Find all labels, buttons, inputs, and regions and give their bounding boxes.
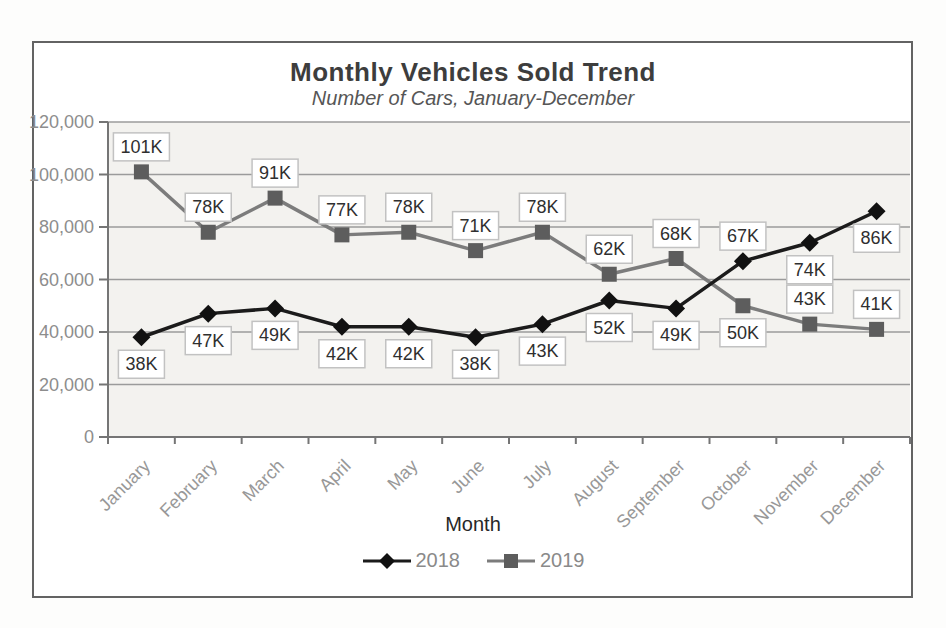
svg-text:41K: 41K [861,294,893,314]
x-axis-title: Month [0,513,946,536]
svg-text:100,000: 100,000 [29,165,94,185]
svg-text:July: July [518,456,555,493]
svg-text:43K: 43K [526,341,558,361]
svg-text:49K: 49K [259,325,291,345]
y-axis-ticks [99,122,108,437]
svg-text:91K: 91K [259,163,291,183]
svg-text:42K: 42K [326,344,358,364]
svg-text:20,000: 20,000 [39,375,94,395]
svg-text:78K: 78K [192,197,224,217]
svg-text:101K: 101K [120,137,162,157]
svg-text:February: February [156,456,221,521]
svg-text:47K: 47K [192,331,224,351]
svg-text:August: August [568,456,622,510]
svg-text:80,000: 80,000 [39,217,94,237]
svg-text:May: May [383,456,421,494]
legend-label-2019: 2019 [540,549,585,572]
svg-text:42K: 42K [393,344,425,364]
svg-text:January: January [95,456,154,515]
svg-text:49K: 49K [660,325,692,345]
diamond-marker-icon [362,552,412,570]
svg-text:43K: 43K [794,289,826,309]
svg-text:October: October [696,456,755,515]
legend-item-2019: 2019 [486,549,585,572]
svg-text:67K: 67K [727,226,759,246]
svg-text:74K: 74K [794,260,826,280]
square-marker-icon [486,552,536,570]
svg-text:77K: 77K [326,200,358,220]
y-axis-labels: 020,00040,00060,00080,000100,000120,000 [29,112,94,447]
svg-text:40,000: 40,000 [39,322,94,342]
svg-text:38K: 38K [460,354,492,374]
svg-text:March: March [238,456,288,506]
x-axis-ticks [108,437,910,444]
svg-text:60,000: 60,000 [39,270,94,290]
page: { "chart_data": { "type": "line", "title… [0,0,946,628]
legend-label-2018: 2018 [416,549,461,572]
legend-item-2018: 2018 [362,549,461,572]
svg-text:38K: 38K [125,354,157,374]
svg-text:April: April [315,456,355,496]
svg-text:120,000: 120,000 [29,112,94,132]
svg-text:71K: 71K [460,216,492,236]
svg-text:78K: 78K [526,197,558,217]
svg-text:0: 0 [84,427,94,447]
svg-text:68K: 68K [660,224,692,244]
svg-text:52K: 52K [593,318,625,338]
svg-text:June: June [447,456,489,498]
svg-text:50K: 50K [727,323,759,343]
svg-text:62K: 62K [593,239,625,259]
svg-text:86K: 86K [861,228,893,248]
svg-text:78K: 78K [393,197,425,217]
legend: 2018 2019 [0,549,946,572]
